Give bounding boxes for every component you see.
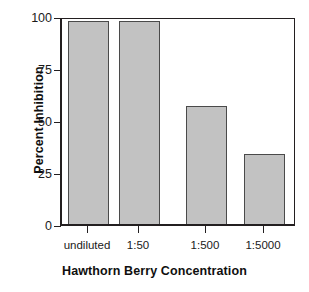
x-tick-mark [87, 226, 88, 233]
bar-1-50 [119, 21, 160, 224]
y-tick-label: 0 [0, 220, 52, 233]
y-axis-title: Percent Inhibition [32, 20, 46, 220]
x-tick-mark [205, 226, 206, 233]
plot-area [60, 18, 295, 226]
y-tick-mark [54, 226, 61, 227]
x-tick-label-1-5000: 1:5000 [223, 239, 303, 252]
x-axis-title: Hawthorn Berry Concentration [0, 264, 309, 278]
bar-1-500 [186, 106, 227, 224]
bar-1-5000 [244, 154, 285, 224]
bar-undiluted [68, 21, 109, 224]
x-tick-mark [263, 226, 264, 233]
bar-chart-figure: 100 75 50 25 0 undiluted 1:50 1:500 1:50… [0, 0, 309, 292]
x-tick-mark [138, 226, 139, 233]
